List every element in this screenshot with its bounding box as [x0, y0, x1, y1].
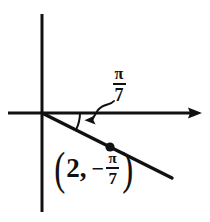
- angle-fraction: π 7: [113, 66, 126, 104]
- angle-measure-label: π 7: [104, 66, 134, 104]
- open-paren: (: [54, 151, 65, 187]
- point-coordinate-label: ( 2 , − π 7 ): [52, 150, 135, 187]
- figure-canvas: [0, 0, 210, 222]
- angle-numerator: π: [114, 66, 125, 82]
- close-paren: ): [122, 151, 133, 187]
- radius-value: 2: [66, 155, 80, 182]
- x-axis-arrowhead: [188, 108, 202, 119]
- negative-sign: −: [92, 158, 105, 180]
- theta-fraction: π 7: [106, 151, 119, 187]
- theta-denominator: 7: [107, 170, 118, 187]
- angle-arc: [76, 113, 80, 129]
- polar-angle-figure: π 7 ( 2 , − π 7 ): [0, 0, 210, 222]
- theta-numerator: π: [108, 151, 118, 166]
- coordinate-comma: ,: [80, 155, 87, 182]
- angle-leader-arrowhead: [85, 116, 96, 125]
- angle-denominator: 7: [114, 86, 125, 104]
